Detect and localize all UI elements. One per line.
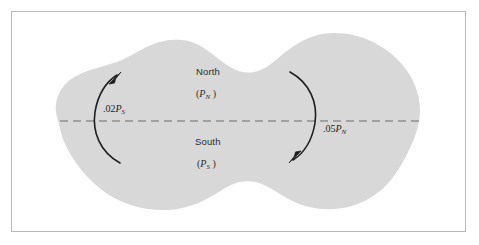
north-paren-close: ) — [210, 88, 216, 99]
region-label-south: South — [195, 136, 221, 147]
left-flow-var: P — [116, 103, 122, 114]
right-flow-sub: N — [342, 128, 347, 136]
right-flow-coefficient: .05 — [323, 123, 336, 134]
right-flow-var: P — [336, 123, 342, 134]
diagram-canvas — [0, 0, 479, 245]
flow-label-north-to-south: .02PS — [103, 103, 125, 114]
south-paren-close: ) — [210, 158, 216, 169]
north-symbol-sub: N — [205, 93, 210, 101]
left-flow-coefficient: .02 — [103, 103, 116, 114]
region-symbol-south: (PS ) — [197, 158, 216, 169]
flow-label-south-to-north: .05PN — [323, 123, 346, 134]
figure-root: North (PN ) South (PS ) .02PS .05PN — [0, 0, 479, 245]
left-flow-sub: S — [122, 108, 126, 116]
region-label-north: North — [196, 66, 220, 77]
region-symbol-north: (PN ) — [196, 88, 216, 99]
south-symbol-sub: S — [206, 163, 210, 171]
